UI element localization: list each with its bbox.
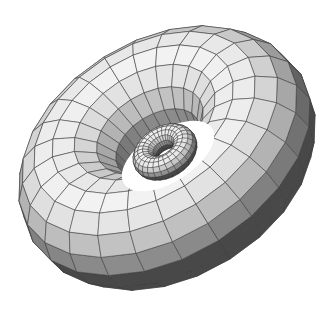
mesh-facet (98, 232, 136, 258)
mesh-facet (148, 168, 154, 173)
mesh-facet (98, 210, 130, 236)
mesh-facet (182, 134, 188, 138)
mesh-facet (162, 130, 166, 136)
torus-figure (0, 0, 333, 311)
mesh-facet (69, 210, 99, 235)
mesh-facet (156, 64, 174, 88)
mesh-facet (69, 232, 101, 257)
